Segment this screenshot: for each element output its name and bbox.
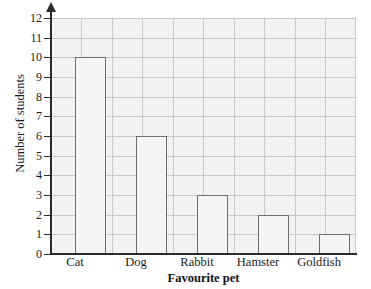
y-tick-mark xyxy=(44,136,51,137)
x-tick-label-goldfish: Goldfish xyxy=(284,256,354,270)
y-tick-mark xyxy=(44,234,51,235)
y-tick-label: 12 xyxy=(12,12,42,24)
y-tick-mark xyxy=(44,97,51,98)
bar-cat xyxy=(75,57,106,254)
y-tick-label: 0 xyxy=(12,248,42,260)
horizontal-gridline xyxy=(51,38,356,39)
y-axis-arrow-icon xyxy=(46,2,56,12)
horizontal-gridline xyxy=(51,18,356,19)
x-tick-label-cat: Cat xyxy=(40,256,110,270)
y-tick-mark xyxy=(44,57,51,58)
y-tick-mark xyxy=(44,175,51,176)
y-tick-mark xyxy=(44,77,51,78)
y-tick-mark xyxy=(44,215,51,216)
bar-chart-figure: 0 1 2 3 4 5 6 7 8 9 10 11 12 Cat Dog Rab… xyxy=(0,0,371,289)
x-axis-title: Favourite pet xyxy=(51,271,356,286)
y-axis-line xyxy=(50,10,52,255)
bar-rabbit xyxy=(197,195,228,254)
y-tick-label: 2 xyxy=(12,209,42,221)
x-tick-label-hamster: Hamster xyxy=(223,256,293,270)
y-tick-mark xyxy=(44,38,51,39)
bar-dog xyxy=(136,136,167,254)
x-tick-label-dog: Dog xyxy=(101,256,171,270)
y-tick-mark xyxy=(44,116,51,117)
y-tick-mark xyxy=(44,195,51,196)
plot-area xyxy=(51,18,356,254)
y-tick-mark xyxy=(44,18,51,19)
bar-goldfish xyxy=(319,234,350,254)
y-tick-mark xyxy=(44,156,51,157)
bar-hamster xyxy=(258,215,289,254)
x-tick-label-rabbit: Rabbit xyxy=(162,256,232,270)
y-axis-title: Number of students xyxy=(13,39,28,209)
y-tick-label: 1 xyxy=(12,228,42,240)
y-tick-mark xyxy=(44,254,51,255)
